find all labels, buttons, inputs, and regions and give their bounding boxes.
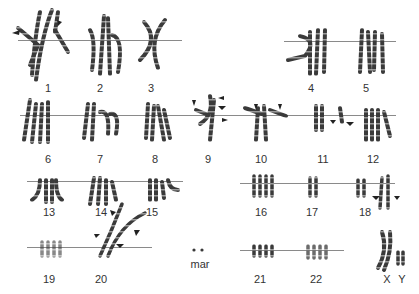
label-chr-3: 3 [148,82,154,94]
chromosome-8 [146,104,170,140]
chromosome-13 [32,180,62,202]
label-chr-20: 20 [95,273,107,285]
label-chr-6: 6 [45,153,51,165]
label-chr-5: 5 [363,82,369,94]
chromosome-5 [360,30,383,72]
label-chr-21: 21 [254,273,266,285]
label-chr-8: 8 [152,153,158,165]
label-chr-12: 12 [367,153,379,165]
label-marker: mar [191,258,210,270]
chromosome-drawings [0,0,419,294]
karyotype-figure: 1 2 3 4 5 6 7 8 9 10 11 12 13 14 15 16 1… [0,0,419,294]
label-chr-22: 22 [310,273,322,285]
chromosome-7 [84,104,117,140]
label-chr-1: 1 [45,82,51,94]
label-chr-10: 10 [255,153,267,165]
chromosome-18 [358,176,388,208]
chromosome-21 [254,246,272,256]
chromosome-15 [150,180,178,200]
label-chr-16: 16 [255,206,267,218]
marker-chromosomes [192,248,203,251]
label-chr-15: 15 [146,206,158,218]
label-chr-14: 14 [95,206,107,218]
chromosome-y [398,252,403,264]
chromosome-3 [140,20,165,68]
label-chr-11: 11 [317,153,328,165]
chromosome-12 [366,110,390,140]
chromosome-1 [18,10,68,80]
chromosome-22 [308,246,326,258]
label-chr-4: 4 [308,82,314,94]
chromosome-14 [90,178,116,204]
chromosome-16 [254,176,272,196]
chromosome-9 [196,96,214,140]
label-chr-y: Y [398,273,405,285]
chromosome-2 [90,16,120,74]
chromosome-17 [310,178,316,196]
label-chr-17: 17 [306,206,318,218]
chromosome-10 [245,106,286,140]
label-chr-2: 2 [97,82,103,94]
chromosome-19 [42,242,60,256]
label-chr-9: 9 [205,153,211,165]
label-chr-x: X [383,273,390,285]
label-chr-7: 7 [97,153,103,165]
label-chr-13: 13 [43,206,55,218]
label-chr-19: 19 [43,273,55,285]
chromosome-4 [288,30,325,74]
chromosome-6 [24,100,48,142]
chromosome-x [378,232,390,270]
chromosome-11 [316,106,342,130]
label-chr-18: 18 [359,206,371,218]
arrowhead-markers [12,20,400,248]
